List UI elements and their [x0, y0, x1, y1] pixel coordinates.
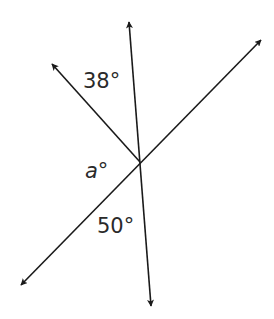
angle-label-a: a°: [85, 159, 108, 183]
diagonal-line: [21, 40, 261, 285]
angle-diagram: 38° a° 50°: [0, 0, 274, 319]
angle-label-50: 50°: [97, 214, 134, 238]
angle-label-38: 38°: [83, 69, 120, 93]
